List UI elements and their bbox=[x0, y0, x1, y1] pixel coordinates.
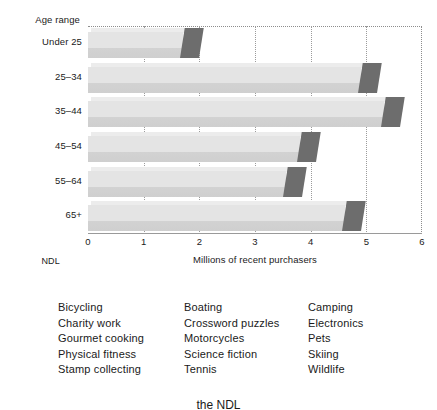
y-category-label: 55–64 bbox=[4, 175, 82, 186]
bar-body bbox=[88, 101, 384, 127]
bar-body bbox=[88, 205, 345, 231]
list-item: Skiing bbox=[308, 347, 428, 363]
bar bbox=[88, 201, 361, 231]
x-tick-label: 4 bbox=[299, 236, 323, 247]
bar-body bbox=[88, 136, 300, 162]
figure-caption: the NDL bbox=[0, 398, 437, 410]
y-category-label: 25–34 bbox=[4, 71, 82, 82]
y-category-label: 35–44 bbox=[4, 105, 82, 116]
x-tick-label: 1 bbox=[132, 236, 156, 247]
plot-border-right bbox=[421, 26, 422, 234]
list-item: Boating bbox=[184, 300, 308, 316]
list-item: Wildlife bbox=[308, 362, 428, 378]
x-tick-label: 0 bbox=[76, 236, 100, 247]
y-category-label: Under 25 bbox=[4, 36, 82, 47]
x-tick-label: 2 bbox=[187, 236, 211, 247]
list-item: Electronics bbox=[308, 316, 428, 332]
list-item: Gourmet cooking bbox=[58, 331, 184, 347]
bar bbox=[88, 167, 302, 197]
x-tick-label: 5 bbox=[354, 236, 378, 247]
y-category-label: 65+ bbox=[4, 209, 82, 220]
x-tick-label: 3 bbox=[243, 236, 267, 247]
interest-column-1: BicyclingCharity workGourmet cookingPhys… bbox=[58, 300, 184, 378]
gridline-5 bbox=[366, 26, 367, 234]
bar bbox=[88, 28, 199, 58]
bar bbox=[88, 97, 400, 127]
list-item: Motorcycles bbox=[184, 331, 308, 347]
list-item: Stamp collecting bbox=[58, 362, 184, 378]
ndl-corner-label: NDL bbox=[8, 256, 60, 266]
bar-end-cap bbox=[283, 167, 307, 197]
interest-column-3: CampingElectronicsPetsSkiingWildlife bbox=[308, 300, 428, 378]
y-axis-title: Age range bbox=[8, 14, 80, 25]
list-item: Physical fitness bbox=[58, 347, 184, 363]
bar-end-cap bbox=[180, 28, 204, 58]
bar-body bbox=[88, 67, 361, 93]
list-item: Crossword puzzles bbox=[184, 316, 308, 332]
x-axis-tick-labels: 0123456 bbox=[88, 236, 422, 252]
bar-end-cap bbox=[381, 97, 405, 127]
list-item: Bicycling bbox=[58, 300, 184, 316]
plot-area bbox=[88, 26, 422, 234]
x-axis-title: Millions of recent purchasers bbox=[88, 254, 422, 265]
list-item: Camping bbox=[308, 300, 428, 316]
bar bbox=[88, 132, 316, 162]
bar-body bbox=[88, 32, 183, 58]
y-category-label: 45–54 bbox=[4, 140, 82, 151]
list-item: Tennis bbox=[184, 362, 308, 378]
x-tick-label: 6 bbox=[410, 236, 434, 247]
interest-column-2: BoatingCrossword puzzlesMotorcyclesScien… bbox=[184, 300, 308, 378]
bar-end-cap bbox=[358, 63, 382, 93]
interest-list: BicyclingCharity workGourmet cookingPhys… bbox=[0, 300, 437, 378]
bar bbox=[88, 63, 377, 93]
list-item: Charity work bbox=[58, 316, 184, 332]
bar-end-cap bbox=[297, 132, 321, 162]
bar-end-cap bbox=[342, 201, 366, 231]
list-item: Pets bbox=[308, 331, 428, 347]
bar-body bbox=[88, 171, 286, 197]
list-item: Science fiction bbox=[184, 347, 308, 363]
